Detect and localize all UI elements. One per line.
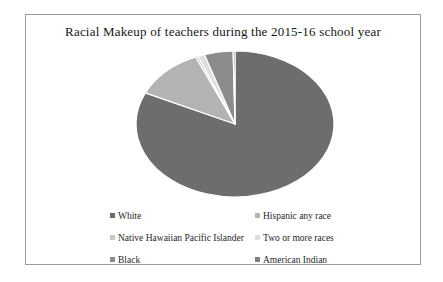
legend-swatch [255, 213, 260, 218]
chart-page: Racial Makeup of teachers during the 201… [0, 0, 443, 282]
legend-item: Two or more races [255, 232, 334, 243]
legend-label: White [118, 211, 141, 221]
legend-swatch [255, 235, 260, 240]
legend-swatch [110, 235, 115, 240]
legend-swatch [110, 257, 115, 262]
legend-item: Native Hawaiian Pacific Islander [110, 232, 255, 243]
chart-title: Racial Makeup of teachers during the 201… [26, 24, 420, 40]
legend-item: Hispanic any race [255, 210, 334, 221]
chart-legend: WhiteHispanic any raceNative Hawaiian Pa… [110, 210, 334, 265]
pie-chart [130, 48, 340, 200]
legend-item: White [110, 210, 255, 221]
legend-item: American Indian [255, 254, 334, 265]
legend-label: Black [118, 255, 140, 265]
legend-label: Hispanic any race [263, 211, 331, 221]
legend-swatch [110, 213, 115, 218]
chart-frame: Racial Makeup of teachers during the 201… [25, 14, 421, 265]
legend-label: Native Hawaiian Pacific Islander [118, 233, 244, 243]
legend-swatch [255, 257, 260, 262]
legend-label: Two or more races [263, 233, 334, 243]
legend-label: American Indian [263, 255, 327, 265]
legend-item: Black [110, 254, 255, 265]
